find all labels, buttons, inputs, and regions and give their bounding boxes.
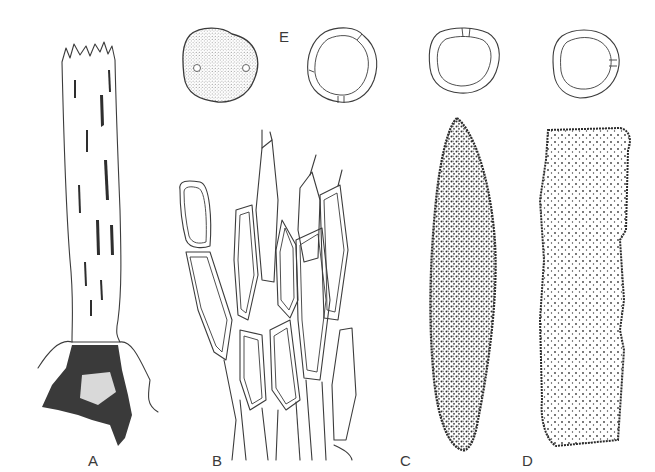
volva-left-edge: [38, 341, 72, 368]
spore-pore-right: [243, 65, 250, 72]
panel-label-b: B: [212, 452, 222, 469]
panel-label-a: A: [88, 452, 98, 469]
panel-label-e: E: [279, 28, 289, 45]
spindle-structure: [430, 118, 495, 450]
panel-a: A: [38, 42, 158, 469]
panel-e: E: [183, 28, 619, 103]
panel-b: B: [180, 130, 356, 469]
spore-section-3: [553, 30, 619, 98]
cell-network: [180, 130, 356, 460]
panel-c: C: [400, 118, 496, 469]
panel-d: D: [522, 128, 630, 469]
panel-label-c: C: [400, 452, 411, 469]
spore-section-2: [429, 28, 499, 93]
figure-canvas: A: [0, 0, 655, 472]
rectangular-structure: [540, 128, 630, 446]
spore-section-1: [308, 28, 377, 103]
panel-label-d: D: [522, 452, 533, 469]
stipe-outline: [62, 42, 121, 342]
spore-pore-left: [194, 65, 201, 72]
stipe-streaks: [74, 70, 114, 316]
